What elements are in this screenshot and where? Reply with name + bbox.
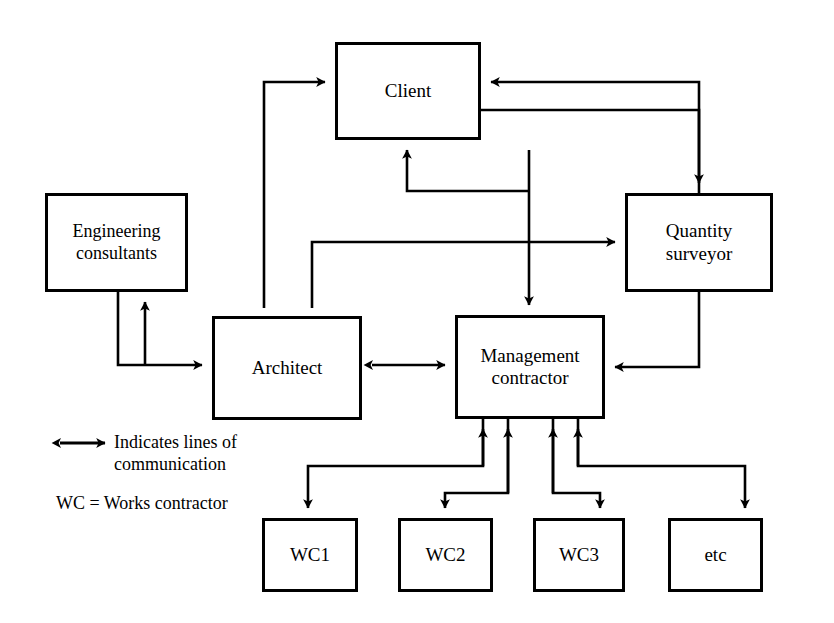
node-wc3[interactable]: WC3 bbox=[533, 518, 625, 592]
node-management-contractor[interactable]: Management contractor bbox=[455, 315, 605, 419]
connector-architect-to-client bbox=[264, 82, 325, 308]
connector-architect-to-quantity bbox=[312, 242, 615, 308]
connector-management-to-etc bbox=[578, 419, 745, 508]
node-management-contractor-label: Management contractor bbox=[476, 345, 583, 390]
connector-engineering-to-architect bbox=[118, 292, 202, 365]
node-client[interactable]: Client bbox=[335, 42, 481, 140]
node-wc2[interactable]: WC2 bbox=[398, 518, 493, 592]
connector-management-to-wc1 bbox=[308, 419, 483, 508]
connector-management-to-wc3 bbox=[553, 419, 600, 508]
connector-quantity-to-client bbox=[491, 82, 699, 193]
connector-management-to-client bbox=[407, 150, 529, 191]
node-architect[interactable]: Architect bbox=[212, 316, 362, 420]
node-etc[interactable]: etc bbox=[668, 518, 763, 592]
node-wc1-label: WC1 bbox=[286, 544, 334, 566]
node-quantity-surveyor[interactable]: Quantity surveyor bbox=[625, 193, 773, 292]
node-engineering-consultants[interactable]: Engineering consultants bbox=[45, 193, 188, 292]
connector-quantity-to-management bbox=[615, 292, 699, 367]
legend-wc-abbreviation-text: WC = Works contractor bbox=[56, 493, 228, 515]
node-etc-label: etc bbox=[700, 544, 730, 566]
legend-communication-text: Indicates lines of communication bbox=[114, 432, 237, 475]
node-engineering-consultants-label: Engineering consultants bbox=[69, 221, 165, 263]
connector-client-to-quantity bbox=[481, 110, 699, 183]
diagram-canvas: Client Engineering consultants Quantity … bbox=[0, 0, 834, 623]
node-architect-label: Architect bbox=[248, 357, 327, 379]
node-client-label: Client bbox=[381, 80, 435, 102]
node-wc1[interactable]: WC1 bbox=[262, 518, 358, 592]
connector-management-to-wc2 bbox=[445, 419, 508, 508]
node-wc3-label: WC3 bbox=[555, 544, 603, 566]
node-wc2-label: WC2 bbox=[421, 544, 469, 566]
node-quantity-surveyor-label: Quantity surveyor bbox=[662, 220, 737, 265]
